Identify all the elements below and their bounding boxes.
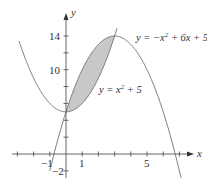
chart-canvas: x y −1 1 5 −2 10 14 y = −x2 + 6x + 5 y =… [0, 0, 207, 187]
tick-label-y-neg2: −2 [52, 165, 64, 177]
tick-label-x-1: 1 [79, 157, 85, 169]
tick-label-y-10: 10 [49, 64, 61, 76]
x-axis-label: x [196, 147, 202, 159]
tick-label-x-neg1: −1 [41, 157, 53, 169]
x-axis-arrow-icon [187, 152, 194, 157]
tick-label-y-14: 14 [49, 30, 61, 42]
shaded-region [66, 36, 115, 112]
y-axis-label: y [70, 6, 76, 18]
equation-label-upward: y = x2 + 5 [98, 83, 142, 95]
y-axis-arrow-icon [64, 13, 69, 20]
tick-label-x-5: 5 [144, 157, 150, 169]
equation-label-downward: y = −x2 + 6x + 5 [135, 31, 207, 43]
